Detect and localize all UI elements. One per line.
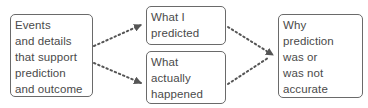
node-text: What I (151, 9, 221, 25)
node-text: What (151, 54, 221, 70)
node-text: predicted (151, 25, 221, 41)
node-text: happened (151, 86, 221, 102)
node-text: Why (283, 17, 358, 33)
node-text: was not (283, 65, 358, 81)
node-why: Why prediction was or was not accurate (278, 14, 363, 98)
node-text: prediction (15, 65, 88, 81)
node-text: actually (151, 70, 221, 86)
node-text: and outcome (15, 81, 88, 97)
node-text: and details (15, 33, 88, 49)
node-text: accurate (283, 81, 358, 97)
node-happened: What actually happened (146, 51, 226, 104)
node-text: that support (15, 49, 88, 65)
node-predicted: What I predicted (146, 6, 226, 45)
node-text: was or (283, 49, 358, 65)
node-text: Events (15, 17, 88, 33)
node-text: prediction (283, 33, 358, 49)
arrow-predicted-to-why (228, 27, 273, 55)
arrow-happened-to-why (228, 58, 268, 84)
arrow-events-to-predicted (94, 25, 141, 46)
node-events: Events and details that support predicti… (10, 14, 93, 97)
arrow-events-to-happened (94, 63, 141, 83)
